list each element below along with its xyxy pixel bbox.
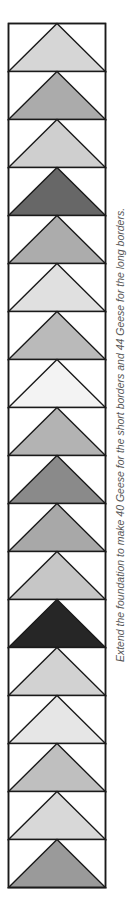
goose-block xyxy=(9,456,106,504)
goose-block xyxy=(9,72,106,120)
goose-block xyxy=(9,168,106,216)
goose-block xyxy=(9,552,106,600)
flying-geese-strip xyxy=(0,0,130,919)
goose-block xyxy=(9,792,106,840)
goose-block xyxy=(9,264,106,312)
goose-block xyxy=(9,744,106,792)
goose-block xyxy=(9,600,106,648)
goose-block xyxy=(9,696,106,744)
goose-block xyxy=(9,408,106,456)
goose-block xyxy=(9,24,106,72)
goose-block xyxy=(9,216,106,264)
instruction-caption: Extend the foundation to make 40 Geese f… xyxy=(114,208,126,662)
goose-block xyxy=(9,504,106,552)
goose-block xyxy=(9,840,106,888)
goose-block xyxy=(9,648,106,696)
goose-block xyxy=(9,120,106,168)
goose-block xyxy=(9,312,106,360)
goose-block xyxy=(9,360,106,408)
